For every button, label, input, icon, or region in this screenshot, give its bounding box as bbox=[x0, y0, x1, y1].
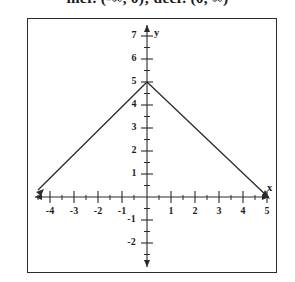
coordinate-plane bbox=[28, 19, 276, 272]
x-tick-label-4: 4 bbox=[237, 205, 249, 216]
graph-frame: y x 7 6 5 4 3 2 1 -1 -2 -4 -3 -2 -1 1 2 … bbox=[27, 18, 277, 273]
x-tick-label-neg3: -3 bbox=[65, 205, 83, 216]
x-axis-label: x bbox=[267, 182, 272, 193]
curve-absolute-value bbox=[38, 82, 268, 197]
y-tick-label-2: 2 bbox=[128, 144, 140, 155]
y-axis-bottom-arrow-icon bbox=[144, 260, 150, 267]
x-tick-label-neg4: -4 bbox=[41, 205, 59, 216]
y-axis-top-arrow-icon bbox=[144, 25, 150, 32]
answer-text: incr. (-∞, 0); decr. (0, ∞) bbox=[0, 0, 295, 9]
y-axis-label: y bbox=[154, 27, 159, 38]
x-tick-label-5: 5 bbox=[261, 205, 273, 216]
y-tick-label-3: 3 bbox=[128, 121, 140, 132]
y-tick-label-4: 4 bbox=[128, 98, 140, 109]
y-tick-label-5: 5 bbox=[128, 75, 140, 86]
x-tick-label-2: 2 bbox=[189, 205, 201, 216]
figure-page: incr. (-∞, 0); decr. (0, ∞) bbox=[0, 0, 295, 282]
y-tick-label-1: 1 bbox=[128, 167, 140, 178]
y-tick-label-neg2: -2 bbox=[123, 236, 140, 247]
y-tick-label-7: 7 bbox=[128, 29, 140, 40]
curve-left-arrow-icon bbox=[36, 189, 44, 196]
y-tick-label-6: 6 bbox=[128, 52, 140, 63]
x-tick-label-neg2: -2 bbox=[89, 205, 107, 216]
x-tick-label-neg1: -1 bbox=[113, 205, 131, 216]
x-tick-label-3: 3 bbox=[213, 205, 225, 216]
x-tick-label-1: 1 bbox=[165, 205, 177, 216]
